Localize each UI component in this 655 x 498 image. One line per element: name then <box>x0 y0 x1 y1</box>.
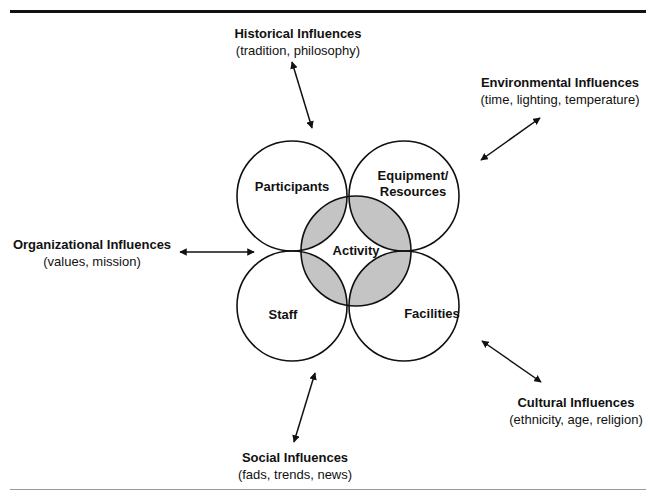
environmental-subtitle: (time, lighting, temperature) <box>465 91 655 108</box>
equipment-label-line2: Resources <box>368 184 458 200</box>
staff-circle <box>237 251 347 361</box>
cultural-title: Cultural Influences <box>500 394 652 411</box>
historical-title: Historical Influences <box>213 25 383 42</box>
organizational-subtitle: (values, mission) <box>8 253 176 270</box>
historical-arrow <box>292 62 312 128</box>
environmental-arrow <box>481 118 540 160</box>
historical-influences: Historical Influences (tradition, philos… <box>213 25 383 59</box>
participants-label: Participants <box>252 179 332 195</box>
staff-label: Staff <box>258 307 308 323</box>
activity-label: Activity <box>321 243 391 259</box>
cultural-influences: Cultural Influences (ethnicity, age, rel… <box>500 394 652 428</box>
social-influences: Social Influences (fads, trends, news) <box>225 449 365 483</box>
cultural-arrow <box>482 341 541 382</box>
facilities-label: Facilities <box>392 306 472 322</box>
organizational-influences: Organizational Influences (values, missi… <box>8 236 176 270</box>
equipment-label: Equipment/ Resources <box>368 168 458 200</box>
equipment-label-line1: Equipment/ <box>368 168 458 184</box>
environmental-influences: Environmental Influences (time, lighting… <box>465 74 655 108</box>
social-arrow <box>294 373 315 442</box>
cultural-subtitle: (ethnicity, age, religion) <box>500 411 652 428</box>
organizational-title: Organizational Influences <box>8 236 176 253</box>
social-title: Social Influences <box>225 449 365 466</box>
historical-subtitle: (tradition, philosophy) <box>213 42 383 59</box>
participants-circle <box>237 141 347 251</box>
social-subtitle: (fads, trends, news) <box>225 466 365 483</box>
environmental-title: Environmental Influences <box>465 74 655 91</box>
